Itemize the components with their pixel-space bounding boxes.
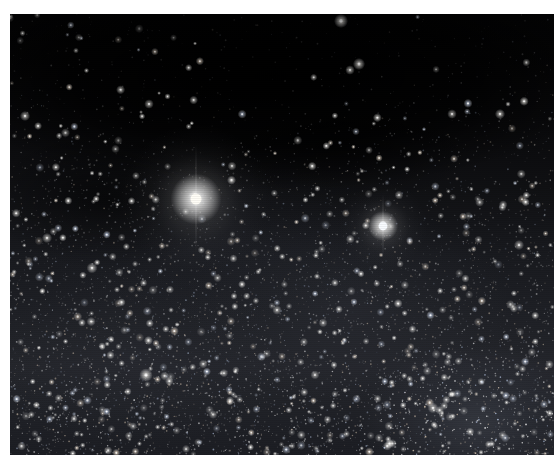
frame-border-top xyxy=(0,0,554,14)
frame-border-bottom xyxy=(0,455,554,468)
frame-border-left xyxy=(0,0,10,468)
sky-image xyxy=(10,14,554,455)
star-field-canvas xyxy=(10,14,554,455)
photo-frame xyxy=(0,0,554,468)
